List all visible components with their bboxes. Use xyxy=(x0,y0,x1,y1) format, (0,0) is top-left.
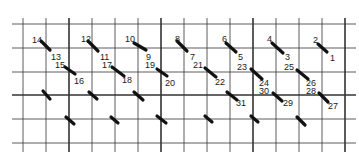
stitch-mark xyxy=(297,117,305,125)
stitch-number-label: 30 xyxy=(259,86,269,96)
stitch-number-label: 18 xyxy=(122,75,132,85)
stitch-number-label: 10 xyxy=(125,34,135,44)
stitch-number-label: 31 xyxy=(236,98,246,108)
stitch-number-label: 8 xyxy=(175,34,180,44)
stitch-number-label: 20 xyxy=(165,78,175,88)
stitch-number-label: 5 xyxy=(238,52,243,62)
stitch-number-label: 27 xyxy=(328,101,338,111)
stitch-number-label: 12 xyxy=(81,34,91,44)
stitch-number-label: 1 xyxy=(330,53,335,63)
stitch-number-label: 22 xyxy=(215,77,225,87)
stitch-number-label: 4 xyxy=(267,34,272,44)
stitch-number-label: 16 xyxy=(74,76,84,86)
stitch-mark xyxy=(251,116,258,122)
stitch-number-label: 14 xyxy=(32,35,42,45)
stitch-mark xyxy=(134,92,143,100)
stitch-number-label: 21 xyxy=(193,60,203,70)
stitch-number-label: 25 xyxy=(284,62,294,72)
stitch-mark xyxy=(157,69,167,76)
stitch-grid-diagram: 1413121110987654321151617181920212223242… xyxy=(0,0,359,162)
stitch-labels: 1413121110987654321151617181920212223242… xyxy=(32,34,338,111)
stitch-mark xyxy=(65,67,75,74)
stitch-mark xyxy=(111,117,118,123)
stitch-number-label: 29 xyxy=(283,98,293,108)
stitch-mark xyxy=(41,41,50,50)
stitch-number-label: 3 xyxy=(285,52,290,62)
stitch-mark xyxy=(205,116,212,122)
stitch-number-label: 17 xyxy=(102,60,112,70)
stitch-number-label: 19 xyxy=(145,60,155,70)
stitch-number-label: 23 xyxy=(237,62,247,72)
stitch-mark xyxy=(66,117,74,124)
stitch-number-label: 15 xyxy=(55,60,65,70)
stitch-number-label: 28 xyxy=(306,86,316,96)
stitch-mark xyxy=(134,43,146,50)
stitch-number-label: 2 xyxy=(313,35,318,45)
stitch-number-label: 6 xyxy=(222,34,227,44)
grid-lines xyxy=(12,18,356,152)
stitch-mark xyxy=(226,43,236,52)
